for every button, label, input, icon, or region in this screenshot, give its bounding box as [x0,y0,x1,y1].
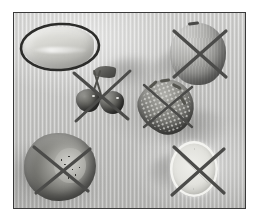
photo-frame [13,12,246,209]
fruit-strawberry [138,79,194,133]
apple-texture [170,23,226,85]
fruit-lemon-slice [170,141,218,197]
cherry-left [76,89,100,112]
cherry-right-highlight [116,97,119,100]
fruit-apple [170,23,226,85]
cherry-left-highlight [92,95,95,98]
fruit-cherries [70,63,132,117]
kiwi-seeds [56,151,85,181]
cherry-right [100,91,124,114]
fruit-kiwi [24,133,96,201]
screenshot-canvas [0,0,258,224]
apple-body [170,23,226,85]
strawberry-seeds [133,74,198,138]
